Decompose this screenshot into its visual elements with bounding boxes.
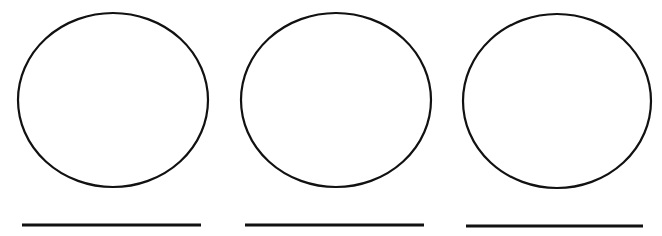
item-3	[463, 14, 651, 226]
item-1	[18, 13, 208, 225]
empty-circle	[18, 13, 208, 187]
item-2	[241, 13, 431, 225]
worksheet-figure	[0, 0, 662, 236]
empty-circle	[463, 14, 651, 188]
empty-circle	[241, 13, 431, 187]
